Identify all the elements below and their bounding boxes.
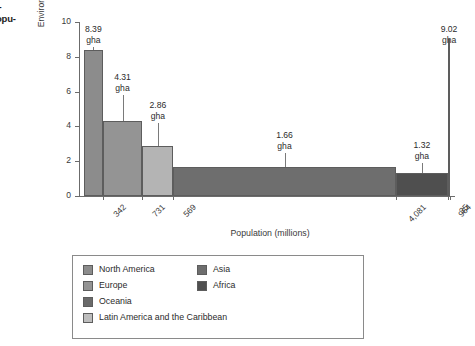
bar [103, 121, 143, 196]
annotation-leader-line [123, 95, 124, 121]
legend-item-label: Oceania [99, 296, 132, 307]
y-tick-label: 6 [66, 86, 71, 96]
bar-value-annotation: 1.66gha [264, 130, 306, 151]
y-tick-label: 2 [66, 155, 71, 165]
legend-item[interactable]: Africa [197, 280, 236, 291]
plot-area: 1086420 3427315694,08196435 8.39gha4.31g… [79, 22, 455, 196]
bar-value: 8.39 [72, 24, 114, 35]
x-axis-label: Population (millions) [84, 228, 456, 238]
y-tick-label: 10 [61, 16, 71, 26]
x-tick [173, 196, 174, 200]
y-tick-label: 4 [66, 120, 71, 130]
y-tick: 10 [75, 22, 79, 23]
bar-value-annotation: 2.86gha [137, 100, 179, 121]
bar-value-annotation: 1.32gha [401, 140, 443, 161]
annotation-leader-line [285, 153, 286, 167]
bar-value-annotation: 4.31gha [102, 72, 144, 93]
bar [173, 167, 395, 196]
legend-swatch-icon [83, 265, 93, 275]
margin-caption-line-1: i- [0, 1, 1, 12]
bar-value: 9.02 [428, 24, 470, 35]
bar-value-unit: gha [428, 35, 470, 46]
bar-value-unit: gha [72, 35, 114, 46]
x-tick [103, 196, 104, 200]
bar-value-unit: gha [401, 151, 443, 162]
y-axis-label: Environmental footprint (gha per person) [36, 0, 50, 38]
legend-swatch-icon [197, 281, 207, 291]
x-tick [448, 196, 449, 200]
legend-item-label: Europe [99, 280, 127, 291]
bar [448, 39, 450, 196]
bar-value: 1.32 [401, 140, 443, 151]
legend-item[interactable]: Oceania [83, 296, 227, 307]
bar-value-annotation: 8.39gha [72, 24, 114, 45]
bar-value: 2.86 [137, 100, 179, 111]
legend-item[interactable]: Asia [197, 264, 236, 275]
y-tick-label: 0 [66, 190, 71, 200]
legend-item-label: Asia [213, 264, 230, 275]
y-axis-line [79, 22, 80, 197]
y-tick: 6 [75, 92, 79, 93]
margin-caption-line-2: opu- [0, 13, 16, 24]
annotation-leader-line [93, 47, 94, 50]
bar-value: 1.66 [264, 130, 306, 141]
x-tick-label: 569 [181, 202, 198, 219]
annotation-leader-line [158, 123, 159, 146]
bar [396, 173, 448, 196]
bar-value: 4.31 [102, 72, 144, 83]
x-tick-label: 731 [151, 202, 168, 219]
y-tick-label: 8 [66, 51, 71, 61]
figure: i- opu- Environmental footprint (gha per… [0, 0, 475, 346]
legend-swatch-icon [83, 281, 93, 291]
bar [84, 50, 103, 196]
legend-item-label: North America [99, 264, 155, 275]
y-tick: 0 [75, 196, 79, 197]
x-tick-label: 342 [111, 202, 128, 219]
y-tick: 4 [75, 126, 79, 127]
legend-item[interactable]: Latin America and the Caribbean [83, 312, 227, 323]
x-tick [396, 196, 397, 200]
y-tick: 8 [75, 57, 79, 58]
legend-item-label: Latin America and the Caribbean [99, 312, 227, 323]
bar-value-annotation: 9.02gha [428, 24, 470, 45]
x-tick [142, 196, 143, 200]
legend-swatch-icon [83, 297, 93, 307]
legend-item-label: Africa [213, 280, 236, 291]
x-axis-line [79, 196, 455, 197]
legend: North AmericaEuropeOceaniaLatin America … [72, 255, 364, 339]
y-tick: 2 [75, 161, 79, 162]
legend-swatch-icon [83, 313, 93, 323]
bar-value-unit: gha [264, 141, 306, 152]
bar-value-unit: gha [102, 83, 144, 94]
x-tick [450, 196, 451, 200]
bar-value-unit: gha [137, 111, 179, 122]
x-tick-label: 4,081 [406, 202, 428, 224]
legend-column-right: AsiaAfrica [197, 264, 236, 296]
bar [142, 146, 173, 196]
legend-swatch-icon [197, 265, 207, 275]
annotation-leader-line [422, 163, 423, 173]
